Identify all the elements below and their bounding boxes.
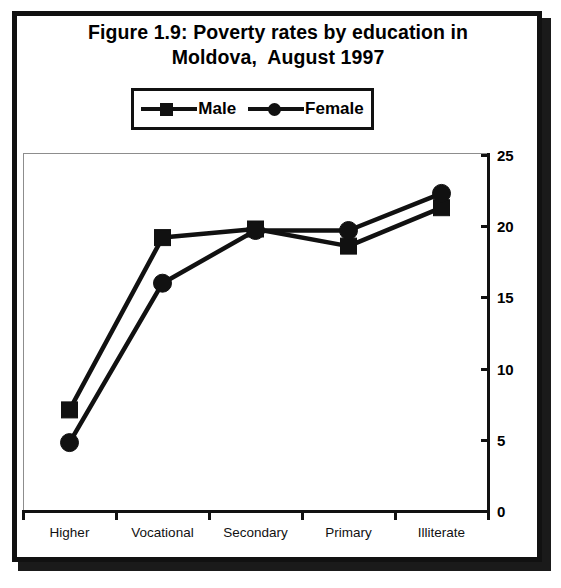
x-axis-tick-label: Illiterate: [418, 525, 465, 540]
x-axis-tick: [115, 510, 118, 520]
legend-label-male: Male: [198, 99, 236, 119]
x-axis-tick: [487, 510, 490, 520]
data-point-circle-female: [61, 434, 79, 452]
x-axis-tick: [301, 510, 304, 520]
data-point-square-male: [155, 230, 171, 246]
square-marker-icon: [141, 100, 197, 118]
y-axis-tick-label: 10: [497, 360, 514, 377]
y-axis-tick-label: 25: [497, 147, 514, 164]
x-axis-tick-label: Vocational: [131, 525, 193, 540]
data-point-circle-female: [433, 184, 451, 202]
y-axis-tick-label: 0: [497, 503, 505, 520]
data-series-layer: [23, 153, 489, 512]
x-axis-tick-label: Primary: [325, 525, 372, 540]
data-point-square-male: [62, 402, 78, 418]
chart-title-line-1: Figure 1.9: Poverty rates by education i…: [28, 20, 528, 45]
chart-legend: Male Female: [131, 88, 374, 130]
legend-entry-male: Male: [141, 91, 236, 127]
plot-area: 0510152025 HigherVocationalSecondaryPrim…: [23, 153, 489, 512]
chart-title: Figure 1.9: Poverty rates by education i…: [28, 20, 528, 70]
figure-container: Figure 1.9: Poverty rates by education i…: [0, 0, 561, 588]
x-axis-tick-label: Secondary: [223, 525, 288, 540]
x-axis-tick: [208, 510, 211, 520]
y-axis-tick-label: 5: [497, 431, 505, 448]
y-axis-tick-label: 20: [497, 218, 514, 235]
data-point-circle-female: [154, 274, 172, 292]
y-axis-tick-label: 15: [497, 289, 514, 306]
y-axis-tick: [481, 439, 490, 442]
legend-entry-female: Female: [248, 91, 364, 127]
data-point-circle-female: [247, 222, 265, 240]
y-axis-tick: [481, 368, 490, 371]
y-axis-tick: [481, 296, 490, 299]
x-axis-tick: [394, 510, 397, 520]
x-axis-tick-label: Higher: [50, 525, 90, 540]
y-axis-line: [487, 153, 490, 513]
data-point-circle-female: [340, 222, 358, 240]
chart-title-line-2: Moldova, August 1997: [28, 45, 528, 70]
x-axis-line: [23, 510, 490, 513]
y-axis-tick: [481, 154, 490, 157]
legend-label-female: Female: [305, 99, 364, 119]
x-axis-tick: [22, 510, 25, 520]
circle-marker-icon: [248, 100, 304, 118]
data-point-square-male: [341, 238, 357, 254]
y-axis-tick: [481, 225, 490, 228]
